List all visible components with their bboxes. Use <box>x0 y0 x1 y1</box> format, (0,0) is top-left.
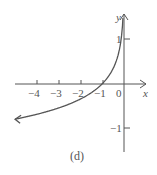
x-axis-label: x <box>143 88 148 99</box>
x-tick-label: 0 <box>116 88 122 99</box>
curve <box>15 18 123 119</box>
caption: (d) <box>70 150 84 162</box>
x-tick-label: −2 <box>72 88 84 99</box>
y-axis-label: y <box>116 12 121 23</box>
x-tick-label: −4 <box>28 88 40 99</box>
y-tick-label: −1 <box>110 123 122 134</box>
y-tick-label: 1 <box>116 34 122 45</box>
x-tick-label: −1 <box>94 88 106 99</box>
x-tick-label: −3 <box>50 88 62 99</box>
